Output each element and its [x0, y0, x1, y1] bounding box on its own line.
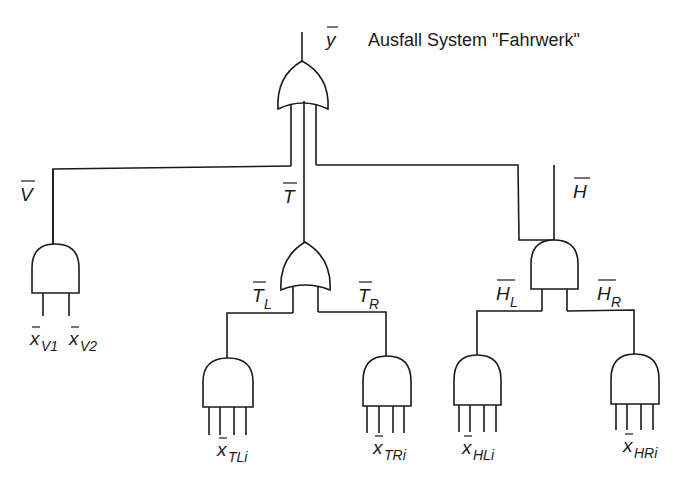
svg-text:y: y: [324, 29, 337, 50]
and-gate-tl: [203, 358, 253, 435]
and-gate-h: [477, 165, 634, 355]
label-hr: H R: [597, 280, 621, 310]
svg-text:V1: V1: [41, 338, 58, 354]
svg-text:L: L: [510, 294, 518, 310]
input-label-xv1: x V1: [29, 327, 58, 354]
svg-text:T: T: [283, 186, 296, 207]
svg-text:HRi: HRi: [634, 445, 658, 461]
input-label-xtri: x TRi: [372, 436, 407, 463]
svg-text:V: V: [20, 184, 35, 205]
top-event-label: y: [324, 27, 338, 50]
svg-text:x: x: [216, 439, 228, 460]
svg-text:L: L: [264, 296, 272, 312]
svg-text:TLi: TLi: [228, 449, 248, 465]
label-h: H: [573, 178, 590, 202]
and-gate-hl: [454, 355, 501, 432]
diagram-title: Ausfall System "Fahrwerk": [368, 30, 580, 50]
svg-text:x: x: [68, 328, 80, 349]
input-label-xv2: x V2: [68, 327, 97, 354]
svg-text:TRi: TRi: [384, 447, 407, 463]
input-label-xtli: x TLi: [216, 438, 248, 465]
input-label-xhli: x HLi: [461, 436, 495, 463]
top-or-gate: [278, 32, 328, 242]
svg-text:R: R: [611, 294, 621, 310]
and-gate-v: [32, 169, 79, 316]
label-tr: T R: [358, 282, 379, 312]
label-t: T: [283, 183, 297, 207]
svg-text:R: R: [369, 296, 379, 312]
svg-text:x: x: [372, 437, 384, 458]
svg-text:x: x: [461, 437, 473, 458]
svg-text:HLi: HLi: [473, 447, 495, 463]
fault-tree-diagram: Ausfall System "Fahrwerk" y V x V1 x V2: [0, 0, 683, 487]
and-gate-tr: [363, 356, 411, 433]
svg-text:x: x: [622, 435, 634, 456]
svg-text:H: H: [597, 283, 611, 304]
svg-text:x: x: [29, 328, 41, 349]
label-v: V: [20, 181, 35, 205]
and-gate-hr: [611, 354, 659, 430]
label-hl: H L: [496, 280, 518, 310]
input-label-xhri: x HRi: [622, 434, 658, 461]
svg-text:V2: V2: [80, 338, 97, 354]
svg-text:H: H: [573, 181, 587, 202]
svg-text:H: H: [496, 283, 510, 304]
label-tl: T L: [252, 282, 272, 312]
